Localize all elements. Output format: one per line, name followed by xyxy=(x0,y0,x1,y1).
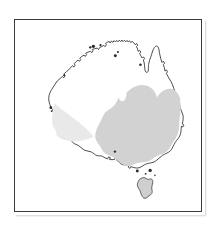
tasmania-group xyxy=(136,169,156,199)
tasmania-islet-ne xyxy=(154,175,156,177)
tasmania-island xyxy=(137,178,152,199)
map-frame xyxy=(14,19,202,212)
map-canvas xyxy=(15,20,201,211)
bass-strait-islet-east xyxy=(148,169,151,172)
bass-strait-islet-south xyxy=(145,173,147,175)
gulf-islet-north xyxy=(117,51,119,53)
kangaroo-island xyxy=(114,150,116,152)
west-coast-islet xyxy=(51,110,53,112)
north-west-cape-islet xyxy=(63,74,65,76)
bass-strait-islet-west xyxy=(136,170,139,173)
shark-bay-islet xyxy=(49,106,52,109)
groote-eylandt xyxy=(114,54,117,57)
arnhem-islet xyxy=(99,44,101,46)
cape-york-islet xyxy=(139,63,142,66)
bathurst-island xyxy=(89,46,91,48)
figure-root xyxy=(0,0,216,226)
melville-island xyxy=(92,45,95,48)
